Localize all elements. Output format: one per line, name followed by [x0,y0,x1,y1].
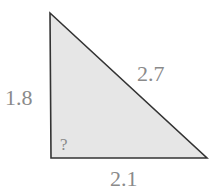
angle-label-unknown: ? [60,135,68,154]
side-label-base: 2.1 [110,166,138,191]
triangle-shape [50,13,207,158]
side-label-vertical: 1.8 [5,85,33,110]
side-label-hypotenuse: 2.7 [137,61,165,86]
triangle-diagram: 1.8 2.7 2.1 ? [0,0,209,191]
